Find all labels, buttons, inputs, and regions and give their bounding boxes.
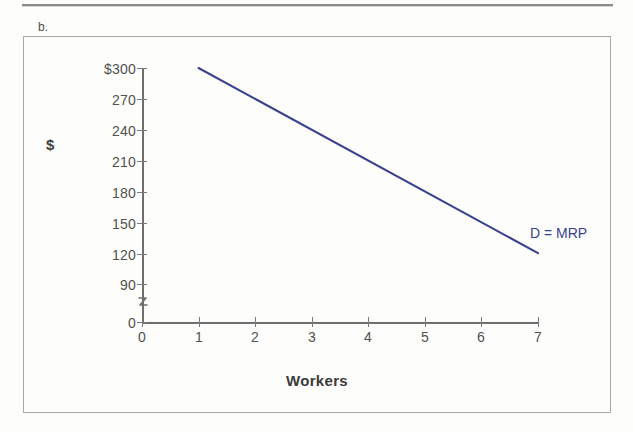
- chart-series-layer: [24, 37, 612, 414]
- x-axis-title: Workers: [24, 372, 610, 389]
- figure-frame: $300 270 240 210 180 150 120 90 0 0 1 2 …: [23, 36, 611, 413]
- demand-mrp-line: [199, 68, 538, 253]
- y-axis-title: $: [46, 136, 54, 153]
- top-divider-rule: [22, 4, 613, 6]
- chart-plot-area: $300 270 240 210 180 150 120 90 0 0 1 2 …: [24, 37, 610, 412]
- part-label: b.: [38, 20, 48, 34]
- series-label-d-mrp: D = MRP: [530, 225, 587, 241]
